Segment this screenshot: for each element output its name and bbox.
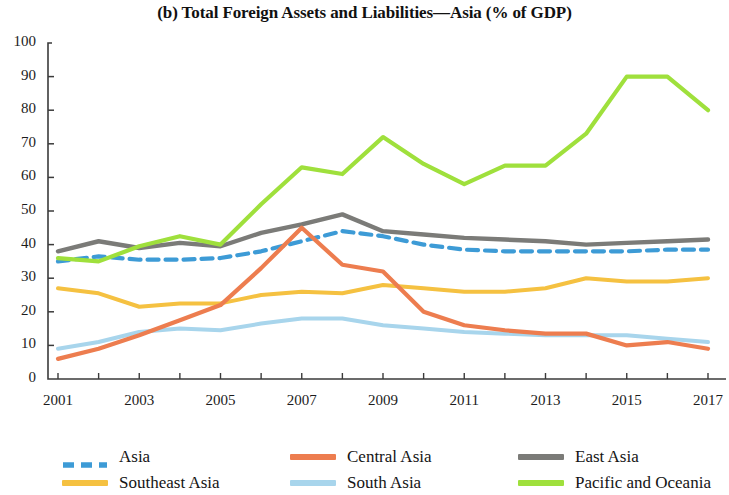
series-line-south-asia	[58, 319, 708, 349]
legend-label: East Asia	[575, 447, 639, 467]
x-axis-tick-label: 2001	[28, 392, 88, 409]
legend-row: AsiaCentral AsiaEast Asia	[0, 444, 729, 469]
legend-label: Asia	[119, 447, 150, 467]
legend-item-southeast-asia[interactable]: Southeast Asia	[62, 470, 220, 495]
chart-figure: (b) Total Foreign Assets and Liabilities…	[0, 0, 729, 495]
legend-item-pacific-and-oceania[interactable]: Pacific and Oceania	[518, 470, 711, 495]
legend-swatch-icon	[290, 454, 336, 460]
legend-swatch-icon	[62, 454, 108, 460]
legend-row: Southeast AsiaSouth AsiaPacific and Ocea…	[0, 470, 729, 495]
legend-item-central-asia[interactable]: Central Asia	[290, 444, 432, 469]
chart-title: (b) Total Foreign Assets and Liabilities…	[0, 3, 729, 23]
legend-label: Pacific and Oceania	[575, 473, 711, 493]
legend-swatch-icon	[518, 454, 564, 460]
axis-spine	[48, 43, 726, 379]
legend-swatch-icon	[62, 480, 108, 486]
x-axis-tick-label: 2005	[191, 392, 251, 409]
plot-area: 1009080706050403020100	[0, 30, 729, 395]
series-line-southeast-asia	[58, 278, 708, 307]
legend-label: South Asia	[347, 473, 421, 493]
legend-item-asia[interactable]: Asia	[62, 444, 150, 469]
series-line-east-asia	[58, 214, 708, 251]
plot-svg	[0, 30, 729, 395]
legend-swatch-icon	[290, 480, 336, 486]
x-axis-tick-label: 2015	[597, 392, 657, 409]
legend-item-east-asia[interactable]: East Asia	[518, 444, 639, 469]
x-axis-tick-label: 2017	[678, 392, 729, 409]
x-axis-tick-labels: 200120032005200720092011201320152017	[0, 392, 729, 418]
chart-legend: AsiaCentral AsiaEast AsiaSoutheast AsiaS…	[0, 444, 729, 495]
legend-label: Central Asia	[347, 447, 432, 467]
x-axis-tick-label: 2007	[272, 392, 332, 409]
legend-swatch-icon	[518, 480, 564, 486]
legend-label: Southeast Asia	[119, 473, 220, 493]
x-axis-tick-label: 2003	[109, 392, 169, 409]
x-axis-tick-label: 2011	[434, 392, 494, 409]
x-axis-tick-label: 2013	[516, 392, 576, 409]
series-line-pacific-and-oceania	[58, 77, 708, 262]
legend-item-south-asia[interactable]: South Asia	[290, 470, 421, 495]
x-axis-tick-label: 2009	[353, 392, 413, 409]
